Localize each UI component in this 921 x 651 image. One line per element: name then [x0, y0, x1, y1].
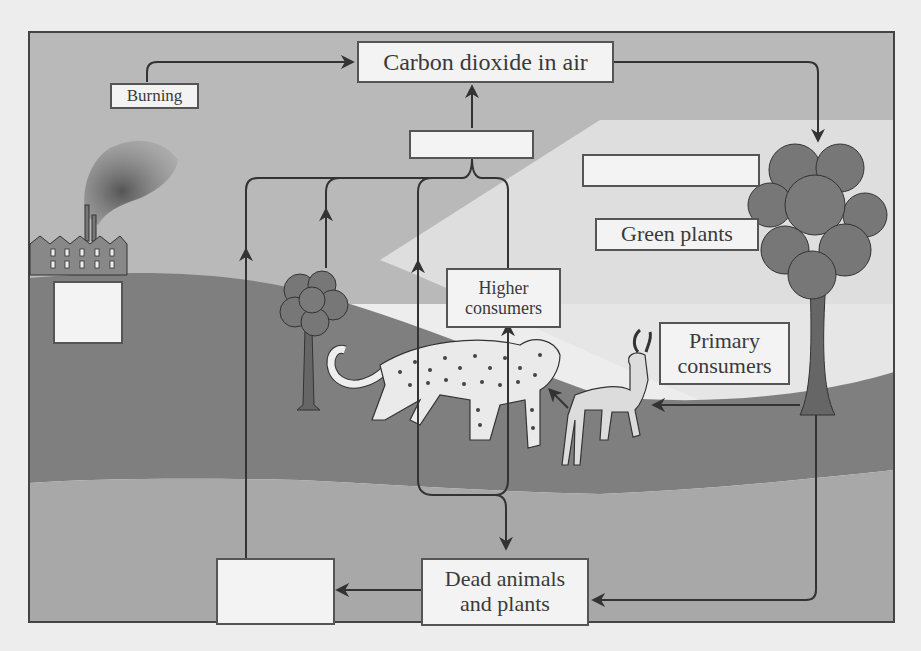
dead-line1: Dead animals — [445, 567, 565, 592]
primary-consumers-line2: consumers — [677, 354, 771, 379]
primary-consumers-label: Primary consumers — [659, 322, 790, 385]
dead-animals-and-plants-label: Dead animals and plants — [421, 558, 589, 626]
primary-consumers-line1: Primary — [689, 329, 760, 354]
higher-consumers-line1: Higher — [479, 278, 529, 298]
decomposers-blank-box[interactable] — [216, 558, 335, 625]
higher-consumers-label: Higher consumers — [446, 268, 561, 328]
respiration-blank-box[interactable] — [409, 130, 534, 159]
dead-line2: and plants — [460, 592, 550, 617]
higher-consumers-line2: consumers — [465, 298, 542, 318]
burning-label: Burning — [110, 83, 199, 109]
green-plants-label: Green plants — [595, 218, 759, 251]
fossil-fuels-blank-box[interactable] — [53, 281, 123, 344]
photosynthesis-blank-box[interactable] — [582, 154, 760, 187]
carbon-dioxide-in-air-label: Carbon dioxide in air — [357, 41, 614, 83]
